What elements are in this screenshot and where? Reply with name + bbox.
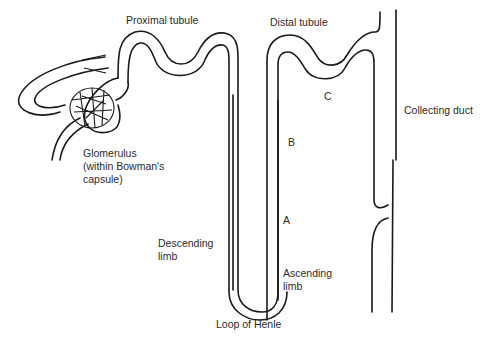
label-glomerulus-line3: capsule): [83, 173, 164, 186]
marker-c: C: [324, 90, 332, 103]
afferent-arteriole: [19, 57, 108, 115]
bowmans-capsule: [84, 78, 128, 133]
label-glomerulus: Glomerulus (within Bowman's capsule): [83, 147, 164, 186]
marker-b: B: [288, 136, 295, 149]
label-ascending-line1: Ascending: [283, 267, 332, 280]
label-ascending-line2: limb: [283, 280, 332, 293]
label-descending-line2: limb: [158, 250, 213, 263]
nephron-diagram: Proximal tubule Distal tubule Collecting…: [0, 0, 486, 338]
label-proximal-tubule: Proximal tubule: [126, 14, 198, 27]
collecting-duct-right: [392, 10, 396, 312]
label-distal-tubule: Distal tubule: [270, 16, 328, 29]
label-loop-of-henle: Loop of Henle: [216, 318, 281, 331]
label-descending-line1: Descending: [158, 237, 213, 250]
label-glomerulus-line1: Glomerulus: [83, 147, 164, 160]
glomerulus-capillaries: [70, 88, 114, 128]
label-glomerulus-line2: (within Bowman's: [83, 160, 164, 173]
collecting-duct-left: [372, 218, 388, 312]
label-ascending-limb: Ascending limb: [283, 267, 332, 293]
nephron-drawing: [0, 0, 486, 338]
label-descending-limb: Descending limb: [158, 237, 213, 263]
marker-a: A: [283, 214, 290, 227]
label-collecting-duct: Collecting duct: [404, 104, 473, 117]
